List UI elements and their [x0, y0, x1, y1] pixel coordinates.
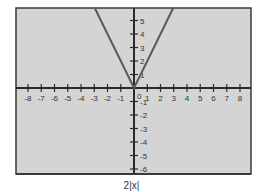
x-tick-label: 8 — [238, 94, 243, 103]
x-tick-label: 3 — [172, 94, 177, 103]
x-tick-label: -5 — [64, 94, 72, 103]
x-tick-label: 5 — [198, 94, 203, 103]
y-tick-label: -6 — [140, 165, 148, 174]
x-tick-label: -7 — [38, 94, 46, 103]
x-tick-label: -8 — [24, 94, 32, 103]
x-tick-label: -2 — [104, 94, 112, 103]
y-tick-label: 3 — [140, 44, 145, 53]
x-tick-label: -6 — [51, 94, 59, 103]
y-tick-label: 5 — [140, 17, 145, 26]
y-tick-label: 4 — [140, 30, 145, 39]
chart-caption: 2|x| — [0, 180, 263, 191]
x-tick-label: -3 — [91, 94, 99, 103]
x-tick-label: 6 — [211, 94, 216, 103]
y-tick-label: 2 — [140, 57, 145, 66]
y-tick-label: -3 — [140, 125, 148, 134]
x-tick-label: 2 — [158, 94, 163, 103]
y-tick-label: -2 — [140, 111, 148, 120]
x-tick-label: -4 — [77, 94, 85, 103]
x-tick-label: 4 — [185, 94, 190, 103]
x-tick-label: 7 — [225, 94, 230, 103]
x-tick-label: -1 — [117, 94, 125, 103]
graph-plot: -8-7-6-5-4-3-2-112345678-6-5-4-3-2-11234… — [0, 0, 263, 192]
y-tick-label: -5 — [140, 152, 148, 161]
origin-label: 0 — [137, 92, 142, 101]
y-tick-label: -4 — [140, 138, 148, 147]
